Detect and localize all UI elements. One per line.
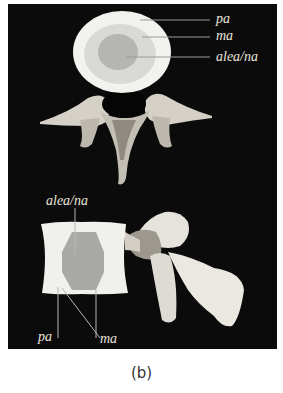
disc-top-view	[73, 11, 171, 93]
label-top-alea-na: alea/na	[216, 50, 258, 64]
figure-caption: (b)	[0, 364, 283, 382]
label-side-pa: pa	[38, 330, 52, 344]
spinal-canal	[102, 90, 146, 118]
label-top-ma: ma	[216, 29, 233, 43]
disc-side-view	[41, 222, 128, 295]
vertebra-side-processes	[125, 212, 244, 327]
label-top-pa: pa	[216, 12, 230, 26]
label-side-alea-na: alea/na	[46, 194, 88, 208]
label-side-ma: ma	[100, 332, 117, 346]
